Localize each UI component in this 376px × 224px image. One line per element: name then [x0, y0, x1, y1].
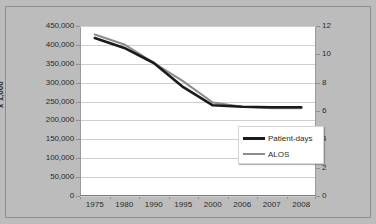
x-axis-tick-label: 2008: [292, 200, 310, 209]
x-axis-tick-label: 2000: [204, 200, 222, 209]
y-axis-right-tick-label: 2: [322, 163, 326, 172]
y-axis-left-tick-label: 400,000: [12, 40, 74, 49]
legend-label-patient-days: Patient-days: [268, 134, 312, 143]
x-axis-tick-label: 2007: [263, 200, 281, 209]
y-axis-left-tick-label: 350,000: [12, 59, 74, 68]
y-axis-right-tick-label: 8: [322, 78, 326, 87]
x-axis-tick-label: 1990: [145, 200, 163, 209]
chart-figure: x 1,000 050,000100,000150,000200,000250,…: [0, 0, 376, 224]
legend-label-alos: ALOS: [268, 150, 289, 159]
line-patient-days: [95, 38, 301, 107]
x-axis-tick-label: 1995: [174, 200, 192, 209]
plot-area: [80, 26, 316, 196]
legend-swatch-patient-days: [243, 137, 265, 140]
y-axis-right-tickmark: [316, 54, 320, 55]
y-axis-left-tick-label: 100,000: [12, 153, 74, 162]
gridline: [80, 196, 316, 197]
y-axis-left-tick-label: 450,000: [12, 21, 74, 30]
x-axis-tick-label: 1980: [115, 200, 133, 209]
y-axis-right-tick-label: 10: [322, 49, 331, 58]
series-lines: [80, 26, 316, 196]
y-axis-right-tick-label: 6: [322, 106, 326, 115]
legend-item-patient-days: Patient-days: [243, 132, 312, 144]
y-axis-left-tick-label: 50,000: [12, 172, 74, 181]
y-axis-right-tick-label: 12: [322, 21, 331, 30]
y-axis-left-tick-label: 0: [12, 191, 74, 200]
y-axis-right-tickmark: [316, 168, 320, 169]
legend-swatch-alos: [243, 153, 265, 155]
y-axis-left-tick-label: 200,000: [12, 115, 74, 124]
y-axis-right-tick-label: 0: [322, 191, 326, 200]
x-axis-tick-label: 1975: [86, 200, 104, 209]
y-axis-left-tick-label: 150,000: [12, 134, 74, 143]
y-axis-right-tickmark: [316, 26, 320, 27]
y-axis-left-tick-label: 250,000: [12, 97, 74, 106]
legend-item-alos: ALOS: [243, 148, 289, 160]
y-axis-left-tick-label: 300,000: [12, 78, 74, 87]
chart-legend: Patient-days ALOS: [238, 126, 324, 164]
x-axis-tick-label: 2006: [233, 200, 251, 209]
y-axis-right-tickmark: [316, 111, 320, 112]
y-axis-title-left: x 1,000: [0, 81, 5, 108]
y-axis-right-tickmark: [316, 83, 320, 84]
y-axis-right-tickmark: [316, 196, 320, 197]
